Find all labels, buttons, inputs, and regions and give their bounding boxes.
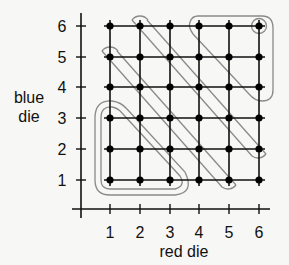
outcome-point: [255, 83, 262, 90]
grid-lines: [104, 20, 265, 186]
outcome-point: [195, 176, 202, 183]
outcome-point: [136, 83, 143, 90]
outcome-point: [136, 145, 143, 152]
outcome-point: [195, 145, 202, 152]
x-axis-title: red die: [160, 243, 209, 260]
outcome-point: [166, 176, 173, 183]
event-loops: [95, 16, 273, 195]
x-tick-label: 4: [195, 224, 204, 241]
dice-diagram: 1 2 3 4 5 6 1 2 3 4 5 6 red die blue die: [0, 0, 289, 265]
outcome-point: [225, 83, 232, 90]
outcome-point: [255, 114, 262, 121]
y-axis-title-line2: die: [18, 108, 39, 125]
x-tick-label: 2: [136, 224, 145, 241]
x-tick-label: 6: [255, 224, 264, 241]
y-axis-title-line1: blue: [14, 89, 44, 106]
y-tick-label: 1: [58, 172, 67, 189]
outcome-point: [166, 83, 173, 90]
x-tick-label: 5: [225, 224, 234, 241]
outcome-point: [106, 114, 113, 121]
y-tick-label: 6: [58, 18, 67, 35]
outcome-point: [166, 53, 173, 60]
outcome-points: [106, 22, 262, 183]
outcome-point: [225, 22, 232, 29]
outcome-point: [195, 53, 202, 60]
outcome-point: [255, 22, 262, 29]
outcome-point: [225, 145, 232, 152]
outcome-point: [166, 114, 173, 121]
outcome-point: [106, 53, 113, 60]
outcome-point: [136, 176, 143, 183]
x-tick-label: 1: [106, 224, 115, 241]
outcome-point: [195, 22, 202, 29]
x-tick-labels: 1 2 3 4 5 6: [106, 224, 264, 241]
outcome-point: [225, 114, 232, 121]
y-tick-label: 5: [58, 49, 67, 66]
outcome-point: [106, 83, 113, 90]
outcome-point: [195, 83, 202, 90]
outcome-point: [225, 53, 232, 60]
x-tick-label: 3: [166, 224, 175, 241]
outcome-point: [225, 176, 232, 183]
outcome-point: [106, 22, 113, 29]
outcome-point: [255, 176, 262, 183]
outcome-point: [195, 114, 202, 121]
outcome-point: [136, 53, 143, 60]
y-tick-label: 2: [58, 141, 67, 158]
outcome-point: [255, 145, 262, 152]
outcome-point: [166, 22, 173, 29]
outcome-point: [255, 53, 262, 60]
outcome-point: [166, 145, 173, 152]
outcome-point: [136, 114, 143, 121]
y-tick-labels: 1 2 3 4 5 6: [58, 18, 67, 189]
outcome-point: [106, 145, 113, 152]
outcome-point: [136, 22, 143, 29]
outcome-point: [106, 176, 113, 183]
y-tick-label: 3: [58, 110, 67, 127]
y-tick-label: 4: [58, 79, 67, 96]
